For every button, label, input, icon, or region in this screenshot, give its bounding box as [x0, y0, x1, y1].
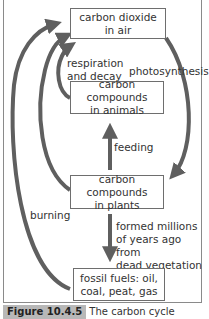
node-text: in air [79, 24, 157, 37]
label-burning: burning [30, 209, 70, 222]
label-feeding: feeding [114, 141, 154, 154]
node-animals: carbon compoundsin animals [70, 81, 164, 114]
figure-caption: Figure 10.4.5 The carbon cycle [3, 305, 202, 319]
label-text: of years ago from [116, 233, 205, 259]
node-text: in animals [71, 104, 163, 117]
node-text: fossil fuels: oil, [80, 272, 158, 285]
label-photosynthesis: photosynthesis [129, 65, 209, 78]
burning-arrow [13, 24, 70, 289]
node-plants: carbon compoundsin plants [70, 175, 164, 209]
label-text: respiration [67, 57, 123, 70]
label-text: formed millions [116, 220, 205, 233]
node-carbon-dioxide: carbon dioxidein air [70, 8, 166, 39]
caption-text: The carbon cycle [89, 306, 174, 317]
photosynthesis-arrow [166, 38, 189, 174]
node-fossil-fuels: fossil fuels: oil,coal, peat, gas [73, 268, 165, 301]
figure-number: Figure 10.4.5 [3, 305, 86, 319]
node-text: carbon compounds [71, 78, 163, 104]
node-text: carbon compounds [71, 173, 163, 199]
plant-respiration-arrow [40, 36, 70, 190]
label-formed: formed millions of years ago from dead v… [116, 220, 205, 272]
node-text: coal, peat, gas [80, 285, 158, 298]
node-text: in plants [71, 199, 163, 212]
node-text: carbon dioxide [79, 11, 157, 24]
